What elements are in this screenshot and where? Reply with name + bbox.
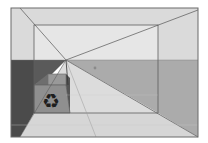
bin-lid	[48, 74, 66, 85]
recycle-icon: ♻	[42, 89, 60, 113]
perspective-drawing: ♻	[0, 0, 208, 143]
back-wall-upper	[34, 25, 158, 60]
perspective-diagram: ♻	[0, 0, 208, 143]
marker-dot	[94, 67, 97, 70]
